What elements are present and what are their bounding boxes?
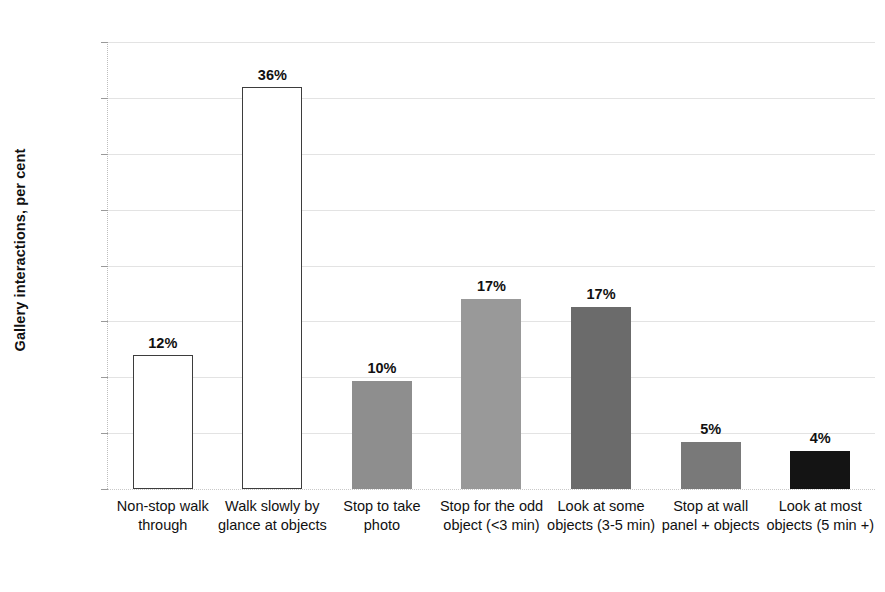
bar-value-label: 5% [700,421,721,437]
bar-value-label: 17% [587,286,616,302]
bar-value-label: 4% [810,430,831,446]
bar-slot: 10% [327,42,437,489]
x-axis-category-label: Non-stop walk through [108,497,218,535]
bar-slot: 36% [218,42,328,489]
bar[interactable]: 17% [571,307,631,489]
bar-value-label: 36% [258,67,287,83]
x-axis-category-label: Stop at wall panel + objects [656,497,766,535]
bar-value-label: 12% [148,335,177,351]
y-axis-tick-mark [101,154,108,155]
bar[interactable]: 10% [352,381,412,489]
bar-slot: 12% [108,42,218,489]
gridline [108,489,875,491]
y-axis-tick-mark [101,42,108,43]
bar[interactable]: 5% [681,442,741,489]
bar[interactable]: 17% [461,299,521,489]
bar-slot: 4% [765,42,875,489]
y-axis-tick-mark [101,321,108,322]
x-axis-category-label: Stop for the odd object (<3 min) [437,497,547,535]
y-axis-tick-mark [101,266,108,267]
bar[interactable]: 4% [790,451,850,489]
bar[interactable]: 36% [242,87,302,489]
x-axis-category-label: Walk slowly by glance at objects [218,497,328,535]
x-axis-category-label: Look at some objects (3-5 min) [546,497,656,535]
y-axis-tick-mark [101,98,108,99]
x-axis-category-label: Look at most objects (5 min +) [765,497,875,535]
plot-area: 40%35%30%25%20%15%10%5%0% 12%36%10%17%17… [108,42,875,489]
bar[interactable]: 12% [133,355,193,489]
y-axis-tick-mark [101,377,108,378]
bar-slot: 17% [546,42,656,489]
bar-slot: 5% [656,42,766,489]
bar-chart: Gallery interactions, per cent 40%35%30%… [0,0,885,592]
x-axis-labels: Non-stop walk throughWalk slowly by glan… [108,497,875,587]
y-axis-tick-mark [101,489,108,490]
bar-value-label: 17% [477,278,506,294]
y-axis-title: Gallery interactions, per cent [0,0,40,500]
y-axis-tick-mark [101,433,108,434]
bar-slot: 17% [437,42,547,489]
y-axis-title-text: Gallery interactions, per cent [12,149,28,352]
y-axis-tick-mark [101,210,108,211]
x-axis-category-label: Stop to take photo [327,497,437,535]
bar-value-label: 10% [367,360,396,376]
